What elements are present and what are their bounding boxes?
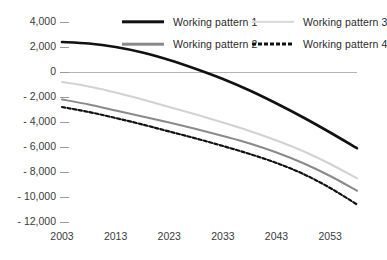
series-line-working-pattern-3 bbox=[62, 82, 357, 178]
series-line-working-pattern-2 bbox=[62, 100, 357, 191]
